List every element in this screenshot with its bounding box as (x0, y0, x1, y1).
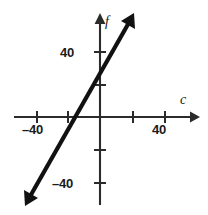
y-axis-arrowhead (95, 13, 106, 24)
x-axis-name-label: c (180, 92, 186, 108)
coordinate-graph: –40 40 40 –40 c f (0, 0, 208, 215)
x-axis-group (14, 112, 200, 123)
y-axis-tick-label-pos40: 40 (60, 45, 74, 60)
x-axis-tick-label-pos40: 40 (152, 122, 166, 137)
y-axis-tick-label-neg40: –40 (52, 176, 73, 191)
data-line-f-of-c (28, 19, 131, 200)
graph-canvas (0, 0, 208, 215)
x-axis-tick-label-neg40: –40 (22, 122, 43, 137)
x-axis-arrowhead (190, 112, 200, 123)
data-line-group (24, 13, 135, 206)
y-axis-group (95, 13, 106, 205)
y-axis-name-label: f (105, 14, 109, 30)
